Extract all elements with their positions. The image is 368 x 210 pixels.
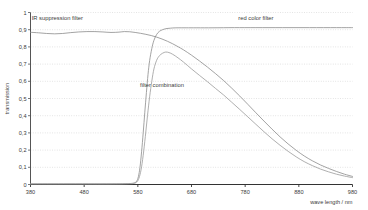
- x-tick-label: 380: [26, 189, 35, 195]
- x-tick-label: 980: [348, 189, 357, 195]
- grid-lines: [31, 13, 353, 168]
- x-tick-label: 580: [133, 189, 142, 195]
- x-tick-label: 880: [294, 189, 303, 195]
- data-series: [31, 28, 353, 184]
- y-tick-label: 0,4: [19, 113, 27, 119]
- annotation-filter-combination: filter combination: [140, 82, 184, 88]
- y-tick-label: 1: [23, 10, 26, 16]
- axis-titles: wave length / nmtransmission: [4, 83, 353, 205]
- transmission-chart: 10,90,80,70,60,50,40,30,20,10 3804805806…: [0, 0, 368, 210]
- annotation-ir-suppression-filter: IR suppression filter: [32, 15, 83, 21]
- y-tick-label: 0,9: [19, 27, 27, 33]
- y-tick-label: 0,3: [19, 130, 27, 136]
- series-line-ir-suppression-filter: [31, 32, 353, 177]
- x-tick-label: 780: [240, 189, 249, 195]
- annotation-red-color-filter: red color filter: [238, 15, 273, 21]
- y-axis-title: transmission: [4, 83, 10, 114]
- y-tick-label: 0,2: [19, 147, 27, 153]
- x-axis-title: wave length / nm: [309, 199, 353, 205]
- y-tick-label: 0,6: [19, 78, 27, 84]
- x-tick-label: 480: [79, 189, 88, 195]
- y-tick-label: 0,7: [19, 61, 27, 67]
- series-line-filter-combination: [31, 52, 353, 184]
- x-axis-ticks: 380480580680780880980: [26, 185, 357, 196]
- y-tick-label: 0: [23, 182, 26, 188]
- series-line-red-color-filter: [31, 28, 353, 184]
- y-axis-ticks: 10,90,80,70,60,50,40,30,20,10: [19, 10, 31, 188]
- y-tick-label: 0,8: [19, 44, 27, 50]
- chart-canvas: 10,90,80,70,60,50,40,30,20,10 3804805806…: [0, 0, 368, 210]
- y-tick-label: 0,1: [19, 164, 27, 170]
- x-tick-label: 680: [187, 189, 196, 195]
- y-tick-label: 0,5: [19, 96, 27, 102]
